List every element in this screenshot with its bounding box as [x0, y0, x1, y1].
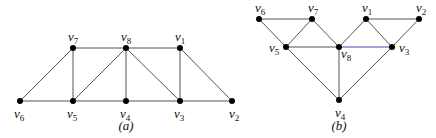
node-label-v5: v5 — [67, 106, 78, 123]
edge-v1-v3 — [366, 19, 392, 47]
edge-v1-v2 — [180, 48, 232, 101]
node-v6 — [17, 98, 23, 104]
node-label-v2: v2 — [229, 106, 239, 123]
node-v3 — [177, 98, 183, 104]
node-label-v6: v6 — [255, 0, 266, 17]
node-label-v1: v1 — [175, 29, 185, 46]
edge-v1-v8 — [339, 19, 366, 47]
node-v4 — [123, 98, 129, 104]
node-v2 — [229, 98, 235, 104]
edge-v8-v3 — [126, 48, 180, 101]
edge-v2-v3 — [392, 19, 419, 47]
node-label-v8: v8 — [121, 29, 132, 46]
node-v4 — [336, 97, 342, 103]
node-v5 — [283, 44, 289, 50]
graph-diagram: v6v5v4v3v2v7v8v1(a) v6v7v1v2v5v8v3v4(b) — [0, 0, 436, 138]
graph-a: v6v5v4v3v2v7v8v1(a) — [14, 29, 239, 133]
edge-v5-v4 — [286, 47, 339, 100]
edge-v5-v8 — [73, 48, 126, 101]
node-label-v5: v5 — [269, 40, 280, 57]
node-label-v3: v3 — [174, 106, 185, 123]
node-v5 — [70, 98, 76, 104]
node-label-v3: v3 — [399, 40, 410, 57]
graph-b: v6v7v1v2v5v8v3v4(b) — [255, 0, 426, 133]
caption-a: (a) — [118, 118, 133, 133]
node-label-v1: v1 — [362, 0, 372, 17]
node-label-v6: v6 — [14, 106, 25, 123]
caption-b: (b) — [331, 118, 346, 133]
edge-v7-v8 — [312, 19, 339, 47]
edge-v7-v5 — [286, 19, 312, 47]
edge-v6-v7 — [20, 48, 73, 101]
node-label-v2: v2 — [416, 0, 426, 17]
node-v3 — [389, 44, 395, 50]
node-label-v7: v7 — [68, 29, 79, 46]
node-label-v7: v7 — [308, 0, 319, 17]
node-label-v8: v8 — [341, 46, 352, 63]
